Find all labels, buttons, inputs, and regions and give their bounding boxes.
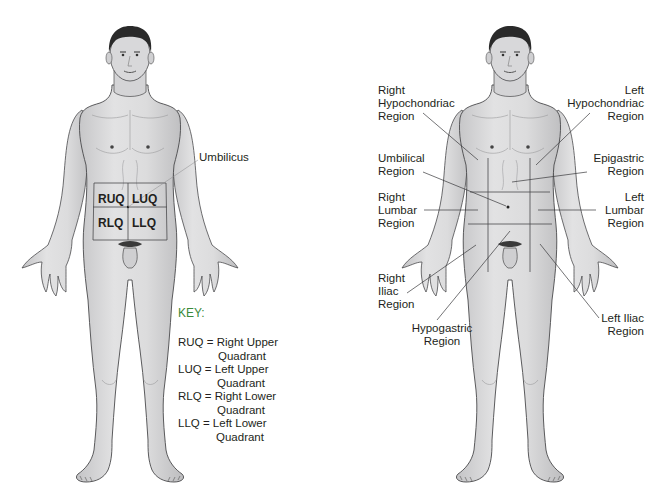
label-umbilical: Umbilical Region [378,152,425,178]
key-def-line1: Left Lower [213,417,267,429]
quadrant-rlq: RLQ [98,216,123,230]
label-right-hypochondriac: Right Hypochondriac Region [378,84,455,123]
key-entry-rlq: RLQ = Right Lower Quadrant [178,390,276,417]
umbilicus-point [507,206,510,209]
key-def-line2: Quadrant [178,350,266,362]
quadrant-ruq: RUQ [98,192,125,206]
quadrant-luq: LUQ [132,192,157,206]
key-def-line2: Quadrant [178,404,265,416]
label-left-hypochondriac: Left Hypochondriac Region [567,84,644,123]
label-hypogastric: Hypogastric Region [402,322,482,348]
label-left-iliac: Left Iliac Region [601,312,644,338]
key-entry-luq: LUQ = Left Upper Quadrant [178,363,268,390]
label-left-lumbar: Left Lumbar Region [605,191,644,230]
umbilicus-label: Umbilicus [199,151,249,164]
key-abbr: RUQ = [178,336,213,348]
quadrant-llq: LLQ [132,216,156,230]
key-entry-llq: LLQ = Left Lower Quadrant [178,417,267,444]
label-right-iliac: Right Iliac Region [378,272,414,311]
key-abbr: LUQ = [178,363,212,375]
label-right-lumbar: Right Lumbar Region [378,191,417,230]
key-def-line2: Quadrant [178,431,264,443]
label-epigastric: Epigastric Region [594,152,645,178]
key-abbr: RLQ = [178,390,212,402]
regions-figure [400,0,620,503]
key-entry-ruq: RUQ = Right Upper Quadrant [178,336,278,363]
key-def-line1: Left Upper [215,363,269,375]
body-illustration-right [400,0,620,503]
key-title: KEY: [178,306,205,320]
key-def-line1: Right Upper [217,336,278,348]
key-def-line2: Quadrant [178,377,265,389]
key-def-line1: Right Lower [215,390,276,402]
key-abbr: LLQ = [178,417,210,429]
